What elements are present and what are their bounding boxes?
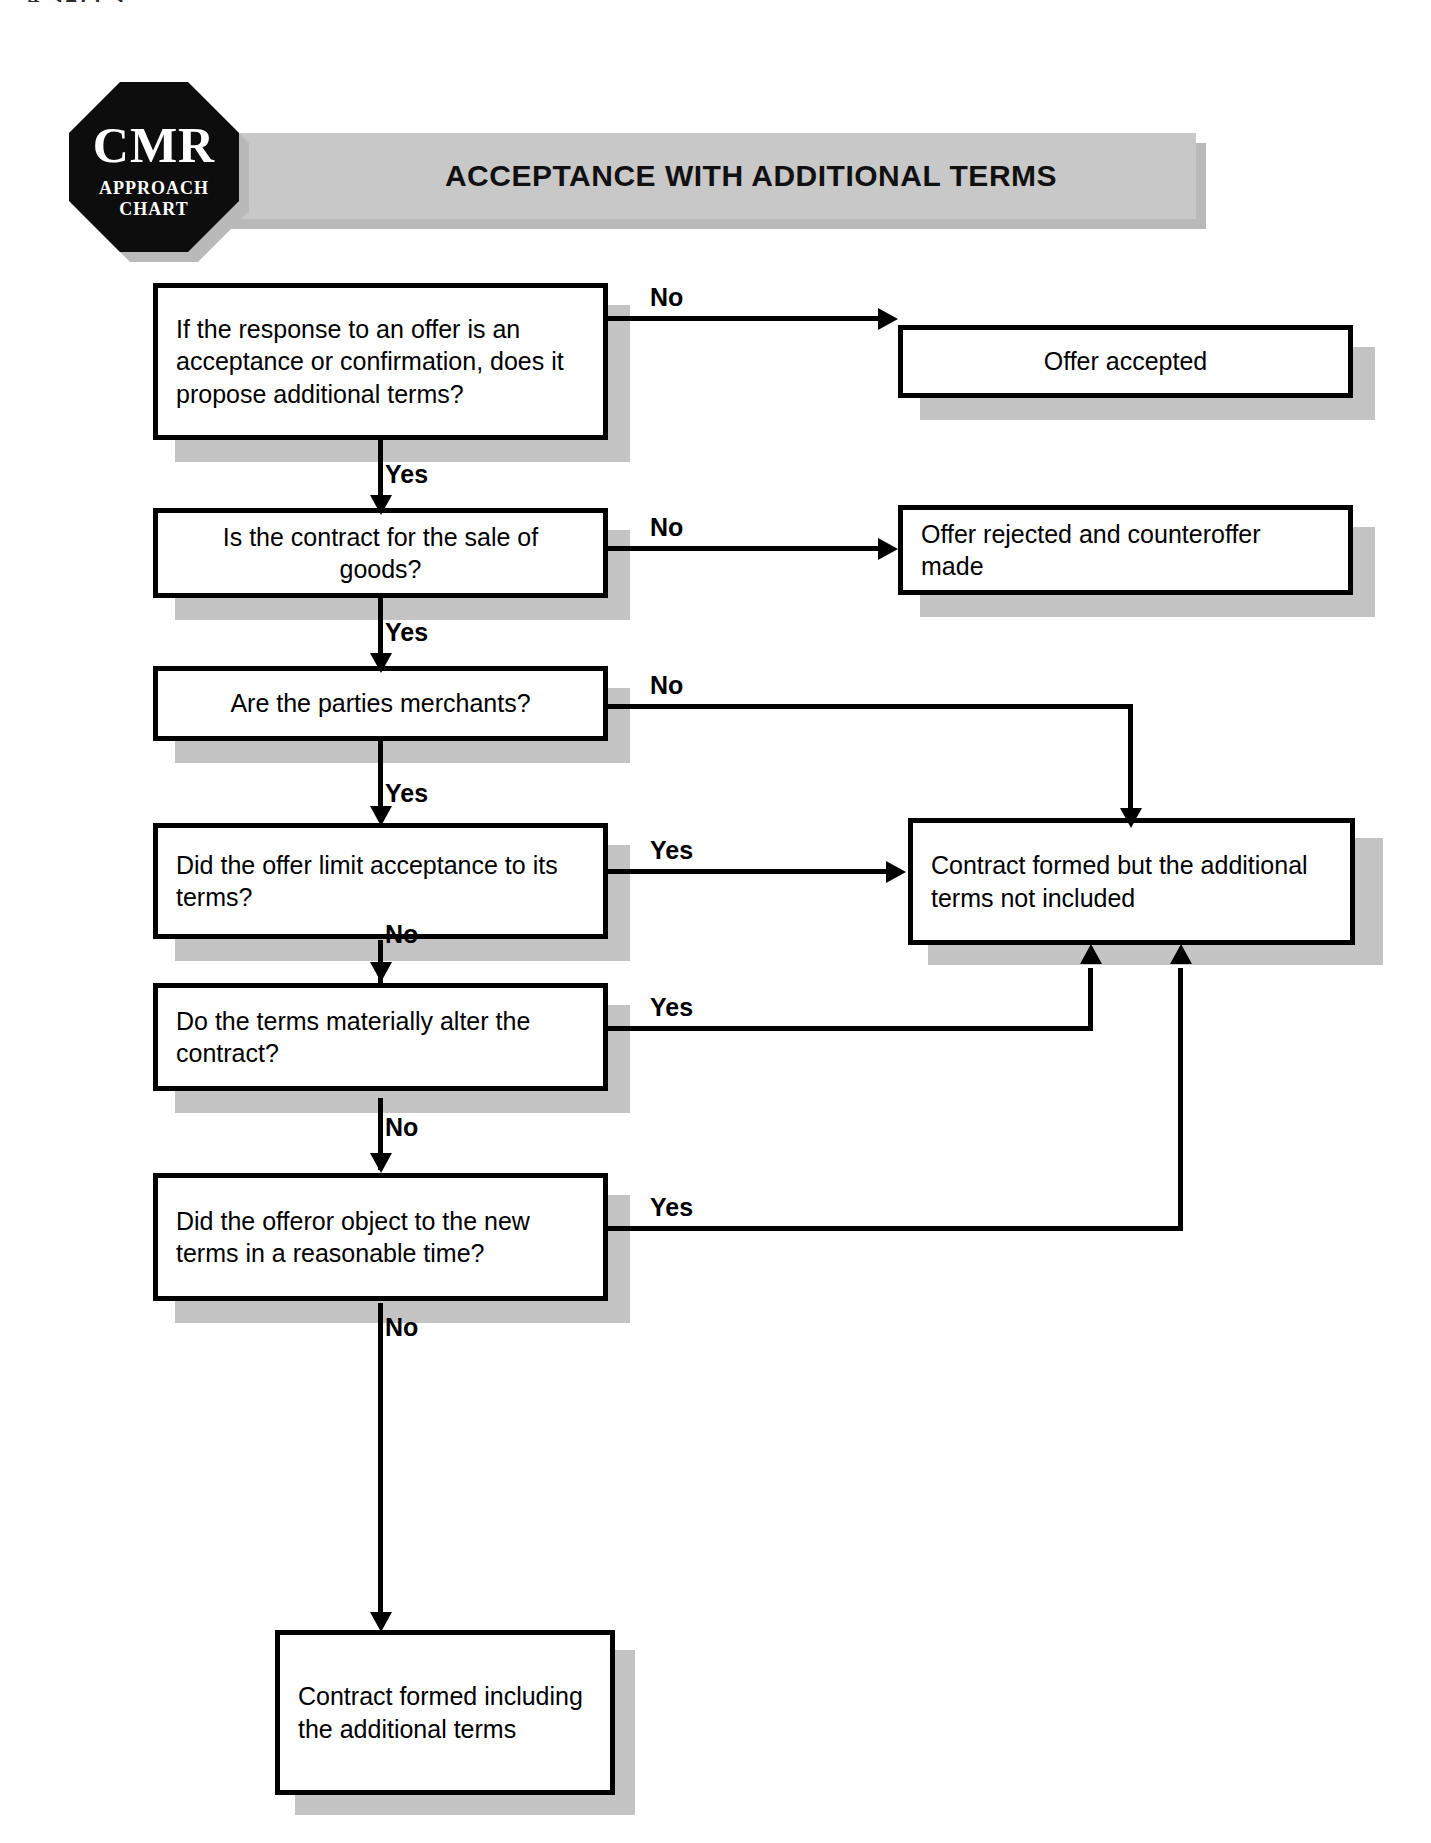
node-r4-contract-formed-including[interactable]: Contract formed including the additional… [275,1630,615,1795]
logo-sub-text-approach: APPROACH [99,178,209,199]
node-r3-contract-formed-excluding[interactable]: Contract formed but the additional terms… [908,818,1355,945]
edge-label-q4-yes: Yes [650,836,693,865]
logo-sub-text-chart: CHART [119,199,188,220]
edge-q6-yes-line-v [1178,968,1183,1228]
edge-q2-no-line [608,546,878,551]
node-r1-offer-accepted[interactable]: Offer accepted [898,325,1353,398]
node-q3-text: Are the parties merchants? [158,687,603,720]
node-r2-offer-rejected[interactable]: Offer rejected and counteroffer made [898,505,1353,595]
edge-q4-yes-arrowhead [886,861,906,883]
edge-q3-no-arrowhead [1120,808,1142,828]
edge-label-q3-no: No [650,671,683,700]
node-q5[interactable]: Do the terms materially alter the contra… [153,983,608,1091]
edge-q6-no-arrowhead [370,1612,392,1632]
logo-main-text: CMR [93,120,215,170]
node-q4-text: Did the offer limit acceptance to its te… [158,849,603,914]
edge-q6-yes-arrowhead [1170,944,1192,964]
node-q2-text: Is the contract for the sale of goods? [158,521,603,586]
edge-q6-no-line-2 [378,1303,383,1618]
node-q1[interactable]: If the response to an offer is an accept… [153,283,608,440]
edge-q2-no-arrowhead [878,538,898,560]
edge-q3-yes-arrowhead [370,806,392,826]
edge-q5-no-arrowhead [370,1153,392,1173]
edge-q1-no-arrowhead [878,308,898,330]
node-q6-text: Did the offeror object to the new terms … [158,1205,603,1270]
node-r2-text: Offer rejected and counteroffer made [903,518,1348,583]
node-q2[interactable]: Is the contract for the sale of goods? [153,508,608,598]
edge-label-q6-yes: Yes [650,1193,693,1222]
edge-q1-yes-arrowhead [370,495,392,515]
edge-q3-no-line-v [1128,704,1133,822]
edge-q6-yes-line-h [608,1226,1183,1231]
edge-label-q2-yes: Yes [385,618,428,647]
edge-label-q2-no: No [650,513,683,542]
edge-q1-no-line [608,316,878,321]
page-title: ACCEPTANCE WITH ADDITIONAL TERMS [325,159,1057,193]
edge-q5-yes-line-v [1088,968,1093,1028]
edge-q3-yes-line [378,741,383,813]
edge-label-q1-yes: Yes [385,460,428,489]
edge-q3-no-line-h [608,704,1133,709]
edge-label-q5-no: No [385,1113,418,1142]
edge-q4-yes-line [608,869,886,874]
approach-chart-page: 4 SALES ACCEPTANCE WITH ADDITIONAL TERMS… [0,0,1431,1843]
edge-label-q5-yes: Yes [650,993,693,1022]
edge-label-q4-no: No [385,920,418,949]
edge-q5-yes-arrowhead [1080,944,1102,964]
running-head: 4 SALES [28,0,125,2]
edge-label-q6-no: No [385,1313,418,1342]
node-q3[interactable]: Are the parties merchants? [153,666,608,741]
edge-label-q3-yes: Yes [385,779,428,808]
edge-q4-no-arrowhead [370,962,392,982]
edge-q2-yes-arrowhead [370,653,392,673]
edge-label-q1-no: No [650,283,683,312]
node-q5-text: Do the terms materially alter the contra… [158,1005,603,1070]
edge-q2-yes-line [378,598,383,660]
edge-q5-yes-line-h [608,1026,1093,1031]
node-r4-text: Contract formed including the additional… [280,1680,610,1745]
node-q1-text: If the response to an offer is an accept… [158,313,603,411]
edge-q1-yes-line [378,440,383,502]
node-r1-text: Offer accepted [903,345,1348,378]
node-r3-text: Contract formed but the additional terms… [913,849,1350,914]
node-q4[interactable]: Did the offer limit acceptance to its te… [153,823,608,939]
cmr-logo: CMR APPROACH CHART [69,82,239,252]
node-q6[interactable]: Did the offeror object to the new terms … [153,1173,608,1301]
title-banner: ACCEPTANCE WITH ADDITIONAL TERMS [186,133,1196,219]
